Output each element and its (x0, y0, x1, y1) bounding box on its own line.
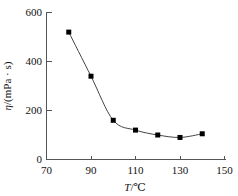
y-axis-title-rest: /(mPa · s) (1, 61, 14, 105)
data-point-80 (66, 30, 71, 35)
y-axis-ticks (47, 13, 52, 160)
x-axis-title: T/℃ (124, 181, 146, 193)
y-tick-label-400: 400 (26, 55, 43, 67)
y-axis-title: η/(mPa · s) (1, 61, 14, 110)
y-tick-label-200: 200 (26, 104, 43, 116)
x-tick-label-70: 70 (41, 164, 53, 176)
data-markers-viscosity (66, 30, 205, 140)
data-point-100 (111, 118, 116, 123)
data-point-120 (155, 133, 160, 138)
x-tick-label-150: 150 (216, 164, 233, 176)
data-point-130 (178, 135, 183, 140)
x-axis-title-rest: /℃ (130, 181, 145, 193)
viscosity-temperature-line-chart: 600 400 200 0 70 90 110 130 150 T/℃ η/(m… (0, 0, 238, 196)
data-curve-viscosity (69, 32, 203, 137)
data-point-110 (133, 128, 138, 133)
x-axis-ticks (47, 156, 225, 160)
data-point-140 (200, 131, 205, 136)
x-tick-label-130: 130 (172, 164, 189, 176)
x-tick-label-110: 110 (127, 164, 144, 176)
data-point-90 (89, 74, 94, 79)
x-tick-label-90: 90 (86, 164, 98, 176)
chart-figure: 600 400 200 0 70 90 110 130 150 T/℃ η/(m… (0, 0, 238, 196)
y-tick-label-600: 600 (26, 6, 43, 18)
